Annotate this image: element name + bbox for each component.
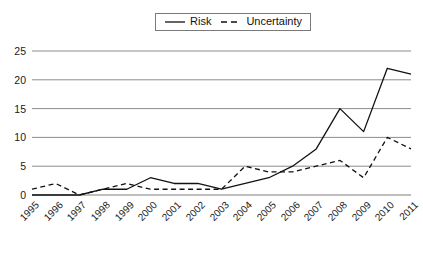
series-line-risk xyxy=(32,68,411,195)
y-axis-tick-label: 20 xyxy=(0,75,26,86)
y-axis-tick-label: 10 xyxy=(0,132,26,143)
y-axis-tick-label: 0 xyxy=(0,190,26,201)
y-axis-tick-label: 5 xyxy=(0,161,26,172)
y-axis-tick-label: 25 xyxy=(0,46,26,57)
y-axis-tick-label: 15 xyxy=(0,104,26,115)
line-chart: Risk Uncertainty 0510152025 199519961997… xyxy=(0,0,423,254)
series-layer xyxy=(32,68,411,195)
